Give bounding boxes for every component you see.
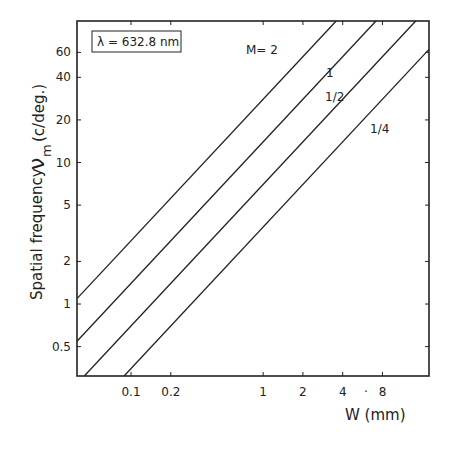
chart: 0.10.21248· 0.512510204060 M= 211/21/4 λ… — [0, 0, 451, 449]
y-axis-title-main: Spatial frequency — [28, 168, 46, 300]
series-label: 1 — [326, 66, 334, 80]
series-label: 1/4 — [370, 122, 389, 136]
y-tick-label: 0.5 — [52, 340, 71, 354]
x-tick-label: 0.2 — [161, 385, 180, 399]
series-line-m-1-2 — [84, 21, 415, 376]
y-axis-title-unit: (c/deg.) — [30, 84, 48, 142]
x-tick-label: 2 — [299, 385, 307, 399]
x-tick-label: 8 — [379, 385, 387, 399]
y-axis-title-subscript: m — [39, 144, 54, 157]
x-axis: 0.10.21248· — [121, 21, 386, 399]
plot-frame — [77, 21, 429, 376]
x-axis-title: W (mm) — [345, 406, 406, 424]
y-tick-label: 10 — [56, 156, 71, 170]
series-layer — [77, 21, 429, 376]
y-tick-label: 20 — [56, 113, 71, 127]
series-label: 1/2 — [325, 90, 344, 104]
y-tick-label: 1 — [63, 297, 71, 311]
y-tick-label: 60 — [56, 45, 71, 59]
y-tick-label: 40 — [56, 70, 71, 84]
x-extra-mark: · — [364, 385, 368, 399]
series-line-m-1-4 — [124, 49, 429, 376]
series-labels: M= 211/21/4 — [246, 43, 389, 136]
x-tick-label: 1 — [259, 385, 267, 399]
y-axis-title-symbol: ν — [24, 158, 49, 170]
x-tick-label: 4 — [339, 385, 347, 399]
series-label: M= 2 — [246, 43, 278, 57]
y-tick-label: 5 — [63, 198, 71, 212]
y-tick-label: 2 — [63, 254, 71, 268]
series-line-m-2 — [77, 21, 336, 299]
x-tick-label: 0.1 — [121, 385, 140, 399]
annotation-text: λ = 632.8 nm — [97, 35, 179, 49]
